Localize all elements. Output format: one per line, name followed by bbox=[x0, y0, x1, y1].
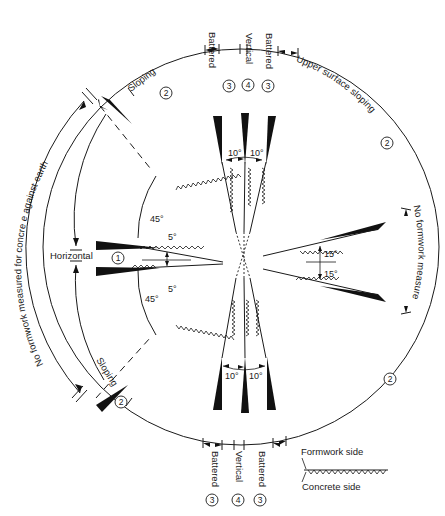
label-horizontal: Horizontal bbox=[50, 250, 93, 261]
angle-bottom-right: 10° bbox=[249, 371, 263, 381]
formwork-diagram: Battered Vertical Battered 3 4 3 Battere… bbox=[0, 0, 445, 516]
bottom-vertical-members bbox=[222, 278, 266, 370]
num-upper-surface-bottom: 2 bbox=[388, 374, 393, 384]
45-degree-arcs bbox=[138, 176, 156, 335]
label-top-battered-right: Battered bbox=[264, 33, 275, 69]
num-horizontal: 1 bbox=[116, 253, 121, 263]
angle-right-upper: 15° bbox=[324, 249, 338, 259]
num-bottom-battered-left: 3 bbox=[210, 495, 215, 505]
legend-formwork-side: Formwork side bbox=[301, 446, 363, 457]
center-crossing bbox=[236, 232, 250, 278]
label-top-battered-left: Battered bbox=[207, 32, 218, 68]
num-upper-surface-top: 2 bbox=[385, 138, 390, 148]
angle-top-left: 10° bbox=[228, 148, 242, 158]
num-top-battered-right: 3 bbox=[266, 81, 271, 91]
legend-sample bbox=[302, 458, 388, 482]
angle-right-lower: 15° bbox=[324, 269, 338, 279]
num-top-battered-left: 3 bbox=[227, 81, 232, 91]
num-bottom-battered-right: 3 bbox=[258, 495, 263, 505]
num-sloping-lower: 2 bbox=[119, 397, 124, 407]
angle-left-small-upper: 5° bbox=[168, 232, 177, 242]
label-bottom-battered-left: Battered bbox=[210, 451, 221, 487]
label-sloping-lower: Sloping bbox=[94, 355, 120, 388]
label-upper-surface-sloping-top: Upper surface sloping bbox=[295, 53, 378, 115]
angle-left-upper: 45° bbox=[150, 214, 164, 224]
label-sloping-upper: Sloping bbox=[125, 65, 157, 93]
angle-left-lower: 45° bbox=[145, 294, 159, 304]
num-sloping-upper: 2 bbox=[164, 88, 169, 98]
label-bottom-battered-right: Battered bbox=[257, 451, 268, 487]
num-top-vertical: 4 bbox=[246, 80, 251, 90]
legend-concrete-side: Concrete side bbox=[302, 481, 361, 492]
top-vertical-members bbox=[222, 157, 266, 232]
angle-bottom-left: 10° bbox=[225, 371, 239, 381]
angle-top-right: 10° bbox=[250, 148, 264, 158]
horizontal-members bbox=[132, 246, 223, 268]
angle-left-small-lower: 5° bbox=[168, 284, 177, 294]
label-bottom-vertical: Vertical bbox=[234, 451, 245, 482]
num-bottom-vertical: 4 bbox=[236, 495, 241, 505]
right-members bbox=[263, 229, 378, 295]
label-top-vertical: Vertical bbox=[244, 33, 255, 64]
formwork-wedges bbox=[96, 96, 386, 413]
